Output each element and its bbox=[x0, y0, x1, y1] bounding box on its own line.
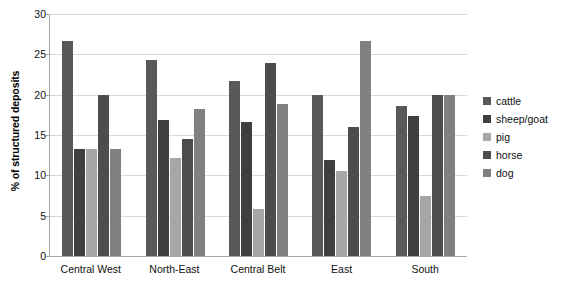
chart-legend: cattlesheep/goatpighorsedog bbox=[483, 92, 569, 182]
legend-item-sheep-goat[interactable]: sheep/goat bbox=[483, 110, 569, 128]
legend-label: sheep/goat bbox=[496, 114, 548, 125]
bar bbox=[229, 81, 240, 256]
bar bbox=[98, 95, 109, 256]
legend-label: horse bbox=[496, 150, 522, 161]
legend-label: dog bbox=[496, 168, 514, 179]
x-axis-category-labels: Central WestNorth-EastCentral BeltEastSo… bbox=[49, 258, 467, 280]
bar bbox=[396, 106, 407, 256]
legend-item-pig[interactable]: pig bbox=[483, 128, 569, 146]
bar bbox=[420, 196, 431, 256]
bar bbox=[158, 120, 169, 256]
x-axis-category-label: South bbox=[383, 258, 467, 280]
legend-item-cattle[interactable]: cattle bbox=[483, 92, 569, 110]
y-axis-tick-label: 20 bbox=[24, 89, 46, 100]
bar bbox=[182, 139, 193, 256]
bar bbox=[336, 171, 347, 257]
x-axis-category-label: Central Belt bbox=[216, 258, 300, 280]
bar bbox=[324, 160, 335, 256]
bar bbox=[146, 60, 157, 256]
legend-swatch-icon bbox=[483, 97, 491, 105]
bar bbox=[277, 104, 288, 256]
bar bbox=[444, 95, 455, 256]
legend-swatch-icon bbox=[483, 169, 491, 177]
legend-swatch-icon bbox=[483, 151, 491, 159]
bar-group bbox=[300, 14, 383, 256]
bar bbox=[360, 41, 371, 256]
legend-swatch-icon bbox=[483, 115, 491, 123]
y-axis-tick-label: 15 bbox=[24, 130, 46, 141]
bar bbox=[348, 127, 359, 256]
legend-swatch-icon bbox=[483, 133, 491, 141]
bar bbox=[86, 149, 97, 256]
bar bbox=[241, 122, 252, 256]
bar-group bbox=[50, 14, 133, 256]
plot-area bbox=[49, 14, 467, 256]
bar bbox=[265, 63, 276, 256]
bar bbox=[62, 41, 73, 256]
y-axis-title-text: % of structured deposits bbox=[9, 71, 21, 192]
bar bbox=[408, 116, 419, 256]
bar bbox=[253, 209, 264, 256]
y-axis-tick-label: 5 bbox=[24, 210, 46, 221]
y-axis-tick-label: 0 bbox=[24, 251, 46, 262]
x-axis-category-label: North-East bbox=[133, 258, 217, 280]
legend-label: pig bbox=[496, 132, 510, 143]
y-axis-tick-label: 25 bbox=[24, 49, 46, 60]
legend-item-dog[interactable]: dog bbox=[483, 164, 569, 182]
bar-group bbox=[133, 14, 216, 256]
bar bbox=[74, 149, 85, 256]
bar-group bbox=[384, 14, 467, 256]
bar bbox=[312, 95, 323, 256]
bar bbox=[170, 158, 181, 256]
axis-baseline bbox=[50, 256, 467, 257]
bar bbox=[194, 109, 205, 256]
x-axis-category-label: East bbox=[300, 258, 384, 280]
bar bbox=[110, 149, 121, 256]
x-axis-category-label: Central West bbox=[49, 258, 133, 280]
bar bbox=[432, 95, 443, 256]
y-axis-tick-labels: 051015202530 bbox=[24, 14, 46, 256]
y-axis-tick-label: 10 bbox=[24, 170, 46, 181]
y-axis-tick-label: 30 bbox=[24, 9, 46, 20]
legend-item-horse[interactable]: horse bbox=[483, 146, 569, 164]
bar-group bbox=[217, 14, 300, 256]
legend-label: cattle bbox=[496, 96, 521, 107]
bars-layer bbox=[50, 14, 467, 256]
y-axis-tickmark bbox=[46, 256, 50, 257]
bar-chart: % of structured deposits 051015202530 Ce… bbox=[0, 0, 571, 284]
